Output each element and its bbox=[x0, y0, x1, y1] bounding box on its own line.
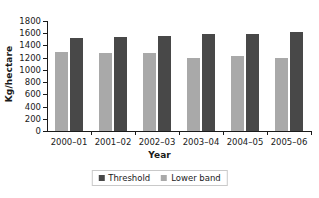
bar-threshold bbox=[202, 34, 216, 131]
bar-lower-band bbox=[143, 53, 157, 131]
y-tick-label: 1600 bbox=[19, 28, 41, 38]
legend-item-lower-band[interactable]: Lower band bbox=[161, 173, 221, 183]
y-tick-label: 400 bbox=[25, 102, 41, 112]
bar-lower-band bbox=[99, 53, 113, 131]
plot-area: 020040060080010001200140016001800 2000–0… bbox=[47, 21, 311, 131]
legend-swatch-icon bbox=[161, 175, 167, 181]
bar-threshold bbox=[290, 32, 304, 131]
bar-group bbox=[267, 21, 311, 131]
y-tick-label: 800 bbox=[25, 77, 41, 87]
x-tick bbox=[311, 131, 312, 135]
x-tick-label: 2001–02 bbox=[95, 137, 132, 147]
x-tick-label: 2000–01 bbox=[51, 137, 88, 147]
bar-chart: Kg/hectare 02004006008001000120014001600… bbox=[0, 0, 319, 198]
bar-threshold bbox=[114, 37, 128, 131]
bar-group bbox=[135, 21, 179, 131]
y-tick-label: 1000 bbox=[19, 65, 41, 75]
bar-group bbox=[223, 21, 267, 131]
chart-legend: ThresholdLower band bbox=[91, 170, 227, 186]
bar-lower-band bbox=[231, 56, 245, 131]
y-tick-label: 200 bbox=[25, 114, 41, 124]
legend-label: Lower band bbox=[171, 173, 221, 183]
x-tick bbox=[223, 131, 224, 135]
bar-group bbox=[179, 21, 223, 131]
bar-lower-band bbox=[187, 58, 201, 131]
y-tick-label: 0 bbox=[36, 126, 41, 136]
x-axis-title: Year bbox=[0, 150, 319, 160]
bar-lower-band bbox=[55, 52, 69, 131]
x-tick-label: 2005–06 bbox=[271, 137, 308, 147]
y-tick-label: 1200 bbox=[19, 53, 41, 63]
legend-label: Threshold bbox=[108, 173, 150, 183]
bar-threshold bbox=[246, 34, 260, 131]
y-axis-title: Kg/hectare bbox=[2, 18, 16, 130]
bar-group bbox=[91, 21, 135, 131]
bar-group bbox=[47, 21, 91, 131]
x-tick-label: 2003–04 bbox=[183, 137, 220, 147]
legend-swatch-icon bbox=[98, 175, 104, 181]
bar-lower-band bbox=[275, 58, 289, 131]
y-tick-label: 1800 bbox=[19, 16, 41, 26]
legend-item-threshold[interactable]: Threshold bbox=[98, 173, 150, 183]
x-tick bbox=[179, 131, 180, 135]
y-tick-label: 1400 bbox=[19, 40, 41, 50]
x-tick bbox=[91, 131, 92, 135]
y-tick bbox=[43, 131, 47, 132]
x-tick-label: 2002–03 bbox=[139, 137, 176, 147]
x-tick bbox=[267, 131, 268, 135]
bar-threshold bbox=[158, 36, 172, 131]
y-tick-label: 600 bbox=[25, 89, 41, 99]
y-axis-title-text: Kg/hectare bbox=[4, 46, 14, 102]
bar-threshold bbox=[70, 38, 84, 131]
x-tick bbox=[135, 131, 136, 135]
x-tick-label: 2004–05 bbox=[227, 137, 264, 147]
